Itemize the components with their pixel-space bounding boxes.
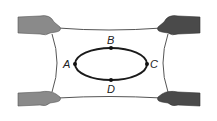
point-a-label: A: [62, 58, 70, 70]
hand-top-left-icon: [18, 16, 61, 35]
point-b-label: B: [107, 34, 114, 46]
point-b-dot: [109, 46, 113, 50]
point-d-label: D: [107, 83, 115, 95]
point-c-label: C: [150, 58, 158, 70]
stretched-sheet-diagram: A B C D: [0, 0, 217, 121]
point-c-dot: [145, 62, 149, 66]
hand-top-right-icon: [158, 16, 201, 35]
point-a-dot: [73, 62, 77, 66]
elliptical-loop: [75, 48, 147, 80]
point-d-dot: [109, 78, 113, 82]
hand-bottom-right-icon: [158, 91, 201, 106]
hand-bottom-left-icon: [18, 91, 61, 106]
